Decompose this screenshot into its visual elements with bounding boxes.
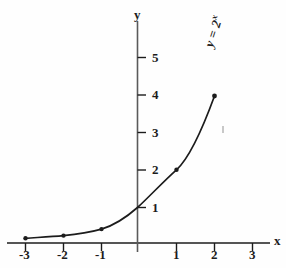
x-tick-label--2: -2: [57, 248, 68, 261]
exponential-curve: [26, 96, 215, 238]
y-tick-marks: [138, 58, 147, 208]
data-point: [23, 236, 27, 240]
data-point: [212, 94, 217, 99]
y-tick-label-5: 5: [152, 51, 159, 64]
x-tick-label--3: -3: [19, 248, 30, 261]
data-point: [174, 168, 178, 172]
y-tick-label-4: 4: [152, 88, 159, 101]
x-tick-label-3: 3: [249, 248, 256, 261]
data-point: [61, 233, 65, 237]
exponential-function-graph: -3 -2 -1 1 2 3 1 2 3 4 5 y x y = 2x: [0, 0, 286, 268]
y-axis-label: y: [134, 8, 141, 21]
y-tick-label-3: 3: [152, 126, 159, 139]
data-point-markers: [23, 94, 217, 241]
x-axis-label: x: [274, 234, 281, 247]
x-tick-label-1: 1: [173, 248, 180, 261]
scan-artifact-speck: [222, 126, 224, 133]
data-point: [99, 227, 103, 231]
y-tick-label-1: 1: [152, 201, 159, 214]
x-tick-label-2: 2: [211, 248, 218, 261]
plot-canvas: [0, 0, 286, 268]
y-tick-label-2: 2: [152, 163, 159, 176]
x-tick-label--1: -1: [95, 248, 106, 261]
